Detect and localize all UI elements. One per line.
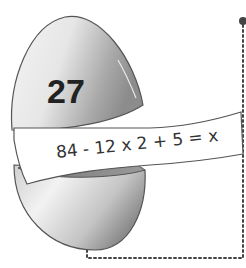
- egg-number-label: 27: [47, 72, 85, 111]
- egg-puzzle-illustration: 27 84 - 12 x 2 + 5 = x: [0, 0, 246, 268]
- start-dot-icon: [239, 17, 246, 25]
